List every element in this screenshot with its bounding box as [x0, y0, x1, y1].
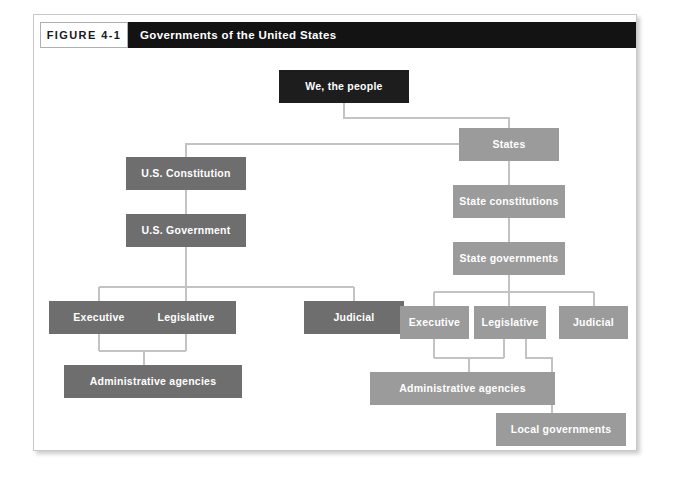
node-label: U.S. Government	[142, 224, 231, 236]
diagram-canvas: We, the people States U.S. Constitution …	[34, 15, 638, 452]
node-label: State constitutions	[459, 195, 558, 207]
node-label: State governments	[460, 252, 559, 264]
node-label: Executive	[409, 316, 460, 328]
node-label: Legislative	[157, 311, 214, 323]
node-states: States	[459, 128, 559, 161]
node-federal-administrative-agencies: Administrative agencies	[64, 365, 242, 398]
figure-frame: We, the people States U.S. Constitution …	[33, 14, 637, 451]
node-label: Judicial	[573, 316, 614, 328]
node-we-the-people: We, the people	[279, 70, 409, 103]
figure-number-box: FIGURE 4-1	[40, 22, 128, 48]
node-label: Local governments	[511, 423, 612, 435]
node-label: U.S. Constitution	[141, 167, 230, 179]
node-label: Legislative	[481, 316, 538, 328]
node-state-judicial: Judicial	[559, 306, 628, 339]
node-state-executive: Executive	[400, 306, 469, 339]
node-label: States	[492, 138, 525, 150]
node-label: Executive	[73, 311, 124, 323]
figure-title-text: Governments of the United States	[140, 29, 337, 41]
node-us-constitution: U.S. Constitution	[126, 157, 246, 190]
figure-number-label: FIGURE 4-1	[47, 29, 122, 41]
node-state-constitutions: State constitutions	[453, 185, 565, 218]
node-label: Administrative agencies	[399, 382, 526, 394]
node-federal-judicial: Judicial	[304, 301, 404, 334]
node-state-administrative-agencies: Administrative agencies	[370, 372, 555, 405]
figure-header: FIGURE 4-1 Governments of the United Sta…	[40, 22, 636, 48]
node-state-legislative: Legislative	[474, 306, 546, 339]
node-us-government: U.S. Government	[126, 214, 246, 247]
node-federal-legislative: Legislative	[136, 301, 236, 334]
node-federal-executive: Executive	[49, 301, 149, 334]
node-label: Judicial	[333, 311, 374, 323]
node-state-governments: State governments	[453, 242, 565, 275]
figure-title-bar: Governments of the United States	[128, 22, 636, 48]
node-label: We, the people	[305, 80, 382, 92]
node-label: Administrative agencies	[90, 375, 217, 387]
node-local-governments: Local governments	[496, 413, 626, 446]
